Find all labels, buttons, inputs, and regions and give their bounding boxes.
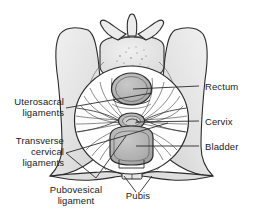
label-cervix: Cervix [205, 116, 233, 127]
anatomy-figure-page: Uterosacral ligaments Transverse cervica… [0, 0, 263, 213]
label-transverse-line2: cervical [0, 146, 64, 157]
label-cervix-text: Cervix [205, 116, 233, 127]
spinous-process [127, 14, 137, 36]
label-pubis: Pubis [114, 190, 162, 201]
label-pubovesical-line2: ligament [40, 195, 112, 206]
transverse-process-left [100, 20, 126, 40]
transverse-process-right [138, 20, 164, 40]
label-uterosacral-line2: ligaments [2, 107, 64, 118]
label-rectum-text: Rectum [205, 81, 238, 92]
label-pubis-text: Pubis [114, 190, 162, 201]
label-rectum: Rectum [205, 81, 238, 92]
bladder [110, 126, 153, 168]
label-pubovesical-ligament: Pubovesical ligament [40, 184, 112, 206]
label-pubovesical-line1: Pubovesical [40, 184, 112, 195]
label-bladder-text: Bladder [205, 141, 238, 152]
label-bladder: Bladder [205, 141, 238, 152]
label-transverse-line3: ligaments [0, 157, 64, 168]
label-transverse-cervical-ligaments: Transverse cervical ligaments [0, 135, 64, 168]
label-transverse-line1: Transverse [0, 135, 64, 146]
label-uterosacral-line1: Uterosacral [2, 96, 64, 107]
label-uterosacral-ligaments: Uterosacral ligaments [2, 96, 64, 118]
